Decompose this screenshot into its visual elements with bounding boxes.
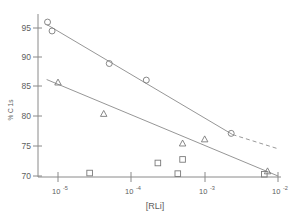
y-tick-label-70: 70: [22, 171, 32, 181]
fit-line-dashed-circles: [233, 135, 278, 149]
fit-line-triangles: [47, 80, 278, 176]
chart-figure: 95 90 85 80 75 70 % C 1s 10 -5 10 -4 10 …: [0, 0, 303, 214]
data-point-triangles-1: [100, 110, 106, 116]
y-tick-label-95: 95: [22, 23, 32, 33]
x-axis-title: [RLi]: [146, 201, 165, 211]
x-tick-base-3: 10: [272, 187, 280, 196]
data-point-circles-3: [143, 77, 149, 83]
x-tick-base-1: 10: [125, 187, 133, 196]
data-point-triangles-2: [179, 140, 185, 146]
y-tick-label-85: 85: [22, 81, 32, 91]
x-tick-label-1e-4: 10 -4: [125, 185, 141, 196]
y-axis-title: % C 1s: [7, 99, 14, 121]
scatter-plot: 95 90 85 80 75 70 % C 1s 10 -5 10 -4 10 …: [0, 0, 303, 214]
x-tick-exp-0: -5: [63, 185, 68, 191]
data-point-squares-2: [175, 171, 181, 177]
data-series-layer: [45, 19, 278, 177]
y-tick-label-80: 80: [22, 111, 32, 121]
data-point-triangles-3: [201, 136, 207, 142]
y-tick-label-90: 90: [22, 52, 32, 62]
x-tick-label-1e-2: 10 -2: [272, 185, 288, 196]
x-tick-base-0: 10: [52, 187, 60, 196]
y-tick-label-75: 75: [22, 141, 32, 151]
x-tick-label-1e-5: 10 -5: [52, 185, 68, 196]
data-point-squares-3: [180, 157, 186, 163]
x-tick-exp-2: -3: [210, 185, 215, 191]
data-point-circles-0: [45, 19, 51, 25]
data-point-squares-1: [155, 160, 161, 166]
x-tick-label-1e-3: 10 -3: [199, 185, 215, 196]
data-point-squares-0: [87, 170, 93, 176]
x-tick-exp-1: -4: [136, 185, 141, 191]
x-tick-exp-3: -2: [283, 185, 288, 191]
x-tick-base-2: 10: [199, 187, 207, 196]
data-point-circles-1: [49, 28, 55, 34]
